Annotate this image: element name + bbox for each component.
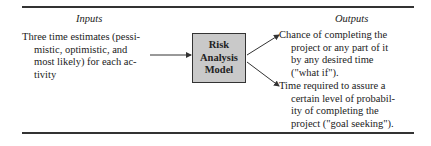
output-arrow-1 (247, 35, 279, 55)
bottom-rule (22, 132, 414, 134)
flow-arrows (0, 0, 431, 146)
output-arrow-2 (247, 62, 279, 86)
